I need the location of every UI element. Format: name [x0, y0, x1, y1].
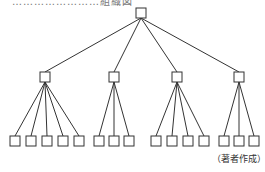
tree-edge: [239, 82, 254, 136]
leaf-node: [94, 136, 104, 146]
leaf-node: [58, 136, 68, 146]
tree-edge: [141, 18, 239, 72]
tree-edge: [177, 82, 188, 136]
root-node: [136, 8, 146, 18]
tree-edge: [224, 82, 239, 136]
leaf-node: [167, 136, 177, 146]
leaf-node: [10, 136, 20, 146]
tree-diagram: [0, 0, 265, 172]
leaf-node: [199, 136, 209, 146]
tree-edge: [177, 82, 204, 136]
tree-edge: [114, 82, 129, 136]
tree-edge: [172, 82, 177, 136]
leaf-node: [219, 136, 229, 146]
leaf-node: [124, 136, 134, 146]
leaf-node: [234, 136, 244, 146]
branch-node: [40, 72, 50, 82]
branch-node: [172, 72, 182, 82]
branch-node: [109, 72, 119, 82]
tree-edge: [45, 82, 63, 136]
branch-node: [234, 72, 244, 82]
tree-edge: [45, 82, 47, 136]
tree-edge: [31, 82, 45, 136]
leaf-node: [26, 136, 36, 146]
tree-edge: [45, 82, 79, 136]
tree-edge: [99, 82, 114, 136]
tree-edge: [15, 82, 45, 136]
tree-edge: [156, 82, 177, 136]
leaf-node: [74, 136, 84, 146]
tree-edge: [141, 18, 177, 72]
leaf-node: [183, 136, 193, 146]
leaf-node: [151, 136, 161, 146]
tree-edge: [45, 18, 141, 72]
leaf-node: [109, 136, 119, 146]
leaf-node: [42, 136, 52, 146]
leaf-node: [249, 136, 259, 146]
source-caption: （著者作成）: [212, 152, 265, 165]
